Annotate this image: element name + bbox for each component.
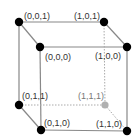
vertex-v111-dot (101, 101, 108, 108)
vertex-label-v011: (0,1,1) (22, 91, 48, 101)
vertex-v101-dot (100, 18, 108, 26)
vertex-label-v110: (1,1,0) (96, 119, 122, 129)
unit-cube-diagram: (0,0,1)(1,0,1)(0,0,0)(1,0,0)(0,1,1)(1,1,… (0, 0, 139, 140)
vertex-v011-dot (15, 101, 23, 109)
vertex-labels: (0,0,1)(1,0,1)(0,0,0)(1,0,0)(0,1,1)(1,1,… (22, 11, 122, 129)
vertex-label-v100: (1,0,0) (95, 51, 121, 61)
edge-v000-v010 (40, 47, 41, 130)
vertex-v110-dot (123, 127, 131, 135)
edge-v001-v000 (19, 22, 40, 47)
vertex-v000-dot (36, 43, 44, 51)
vertex-label-v111: (1,1,1) (78, 91, 104, 101)
cube-vertices (15, 18, 131, 135)
hidden-edge-v101-v111 (104, 22, 105, 105)
edge-v101-v100 (104, 22, 127, 47)
edge-v011-v010 (19, 105, 41, 130)
vertex-v001-dot (15, 18, 23, 26)
vertex-label-v101: (1,0,1) (74, 11, 100, 21)
vertex-v100-dot (123, 43, 131, 51)
vertex-label-v001: (0,0,1) (24, 11, 50, 21)
vertex-label-v000: (0,0,0) (45, 52, 71, 62)
cube-edges (19, 22, 127, 131)
edge-v010-v110 (41, 130, 127, 131)
vertex-label-v010: (0,1,0) (44, 118, 70, 128)
